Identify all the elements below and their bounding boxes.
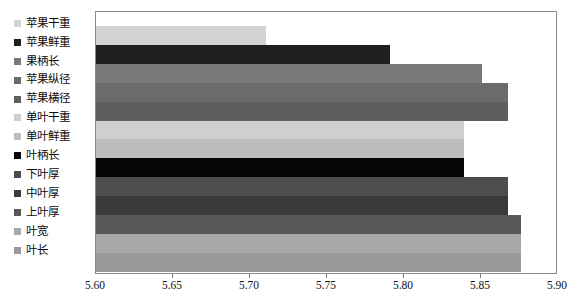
legend-swatch-icon xyxy=(14,247,21,254)
x-tick-label: 5.75 xyxy=(316,279,336,291)
bar-row xyxy=(96,83,556,102)
legend-item[interactable]: 上叶厚 xyxy=(0,203,93,222)
bar-row xyxy=(96,234,556,253)
legend-item[interactable]: 单叶干重 xyxy=(0,109,93,128)
bar[interactable] xyxy=(96,83,508,102)
x-tick-label: 5.85 xyxy=(470,279,490,291)
legend-item[interactable]: 叶宽 xyxy=(0,222,93,241)
bar-row xyxy=(96,45,556,64)
x-tick-label: 5.60 xyxy=(85,279,105,291)
legend-item[interactable]: 果柄长 xyxy=(0,52,93,71)
legend-item-label: 中叶厚 xyxy=(26,188,59,200)
legend-swatch-icon xyxy=(14,133,21,140)
x-tick-mark xyxy=(403,274,404,278)
legend-swatch-icon xyxy=(14,39,21,46)
x-tick-label: 5.70 xyxy=(239,279,259,291)
legend-item-label: 叶长 xyxy=(26,245,48,257)
legend-item[interactable]: 叶柄长 xyxy=(0,146,93,165)
legend-item[interactable]: 苹果横径 xyxy=(0,90,93,109)
bar-row xyxy=(96,64,556,83)
x-tick-label: 5.90 xyxy=(547,279,567,291)
x-tick-mark xyxy=(249,274,250,278)
legend-item[interactable]: 苹果鲜重 xyxy=(0,33,93,52)
legend-item-label: 单叶干重 xyxy=(26,112,70,124)
legend-item-label: 果柄长 xyxy=(26,56,59,68)
bar[interactable] xyxy=(96,196,508,215)
legend-item[interactable]: 叶长 xyxy=(0,241,93,260)
legend-item[interactable]: 下叶厚 xyxy=(0,165,93,184)
legend-swatch-icon xyxy=(14,209,21,216)
x-tick-mark xyxy=(480,274,481,278)
legend-swatch-icon xyxy=(14,20,21,27)
bar-row xyxy=(96,158,556,177)
legend-swatch-icon xyxy=(14,114,21,121)
bar-row xyxy=(96,121,556,140)
legend-swatch-icon xyxy=(14,152,21,159)
bar-row xyxy=(96,102,556,121)
legend-swatch-icon xyxy=(14,190,21,197)
bar[interactable] xyxy=(96,139,464,158)
plot-area xyxy=(95,11,557,274)
chart-legend: 苹果干重苹果鲜重果柄长苹果纵径苹果横径单叶干重单叶鲜重叶柄长下叶厚中叶厚上叶厚叶… xyxy=(0,14,93,286)
bar[interactable] xyxy=(96,26,266,45)
bar-row xyxy=(96,253,556,272)
legend-swatch-icon xyxy=(14,96,21,103)
legend-item[interactable]: 中叶厚 xyxy=(0,184,93,203)
x-tick-mark xyxy=(326,274,327,278)
legend-swatch-icon xyxy=(14,77,21,84)
legend-item-label: 上叶厚 xyxy=(26,207,59,219)
legend-item-label: 下叶厚 xyxy=(26,169,59,181)
bar[interactable] xyxy=(96,121,464,140)
x-axis: 5.605.655.705.755.805.855.90 xyxy=(95,274,557,304)
bar-row xyxy=(96,139,556,158)
bar[interactable] xyxy=(96,253,521,272)
bar-row xyxy=(96,177,556,196)
bar-chart: 苹果干重苹果鲜重果柄长苹果纵径苹果横径单叶干重单叶鲜重叶柄长下叶厚中叶厚上叶厚叶… xyxy=(0,0,574,304)
legend-item-label: 苹果纵径 xyxy=(26,74,70,86)
bar[interactable] xyxy=(96,177,508,196)
legend-swatch-icon xyxy=(14,228,21,235)
legend-item-label: 叶宽 xyxy=(26,226,48,238)
legend-item-label: 单叶鲜重 xyxy=(26,131,70,143)
bar[interactable] xyxy=(96,64,482,83)
x-tick-label: 5.65 xyxy=(162,279,182,291)
legend-swatch-icon xyxy=(14,58,21,65)
bar-row xyxy=(96,26,556,45)
legend-item[interactable]: 苹果干重 xyxy=(0,14,93,33)
bar-row xyxy=(96,215,556,234)
legend-item[interactable]: 苹果纵径 xyxy=(0,71,93,90)
bar-series xyxy=(96,26,556,272)
bar[interactable] xyxy=(96,102,508,121)
legend-item-label: 苹果鲜重 xyxy=(26,37,70,49)
bar[interactable] xyxy=(96,234,521,253)
bar-row xyxy=(96,196,556,215)
legend-swatch-icon xyxy=(14,171,21,178)
legend-item-label: 苹果干重 xyxy=(26,18,70,30)
legend-item-label: 苹果横径 xyxy=(26,93,70,105)
bar[interactable] xyxy=(96,215,521,234)
x-tick-label: 5.80 xyxy=(393,279,413,291)
legend-item[interactable]: 单叶鲜重 xyxy=(0,127,93,146)
legend-item-label: 叶柄长 xyxy=(26,150,59,162)
bar[interactable] xyxy=(96,45,390,64)
x-tick-mark xyxy=(172,274,173,278)
bar[interactable] xyxy=(96,158,464,177)
